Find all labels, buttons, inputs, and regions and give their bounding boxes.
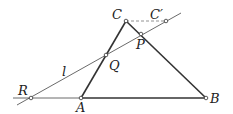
point-R [29, 96, 33, 100]
label-P: P [135, 37, 145, 52]
label-B: B [209, 91, 220, 106]
side-CB [126, 21, 206, 98]
label-A: A [75, 100, 85, 114]
point-P [139, 32, 143, 36]
point-C [124, 19, 128, 23]
geometry-diagram: C C′ P Q l R A B [0, 0, 233, 114]
label-Q: Q [109, 58, 120, 73]
label-C: C [112, 7, 122, 22]
line-l [17, 13, 181, 105]
point-B [204, 96, 208, 100]
point-C-prime [164, 19, 168, 23]
point-Q [104, 53, 108, 57]
label-C-prime: C′ [150, 7, 163, 22]
label-l: l [62, 64, 66, 79]
label-R: R [17, 83, 28, 98]
